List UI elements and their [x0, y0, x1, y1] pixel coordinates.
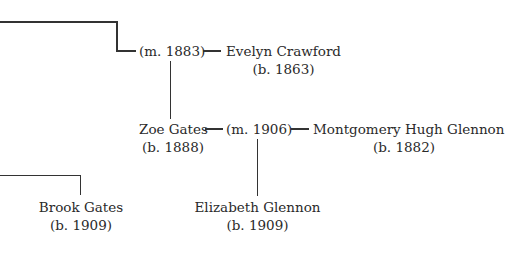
spouse-connector — [203, 50, 221, 52]
person-name-elizabeth[interactable]: Elizabeth Glennon — [190, 199, 325, 215]
connector-line — [80, 175, 81, 195]
person-name-montgomery[interactable]: Montgomery Hugh Glennon — [313, 121, 504, 137]
person-name-brook[interactable]: Brook Gates — [30, 199, 132, 215]
connector-line — [0, 175, 81, 176]
connector-line — [0, 21, 117, 23]
marriage-label-1883: (m. 1883) — [139, 43, 205, 59]
descent-line — [257, 139, 258, 196]
person-born-elizabeth: (b. 1909) — [190, 217, 325, 233]
connector-line — [116, 50, 136, 52]
descent-line — [170, 61, 171, 119]
person-name-zoe[interactable]: Zoe Gates — [139, 121, 208, 137]
person-born-zoe: (b. 1888) — [139, 139, 207, 155]
spouse-connector — [205, 128, 223, 130]
person-name-evelyn[interactable]: Evelyn Crawford — [226, 43, 341, 59]
connector-line — [116, 21, 118, 52]
person-born-brook: (b. 1909) — [30, 217, 132, 233]
person-born-montgomery: (b. 1882) — [313, 139, 495, 155]
spouse-connector — [291, 128, 309, 130]
marriage-label-1906: (m. 1906) — [226, 121, 292, 137]
person-born-evelyn: (b. 1863) — [226, 61, 341, 77]
